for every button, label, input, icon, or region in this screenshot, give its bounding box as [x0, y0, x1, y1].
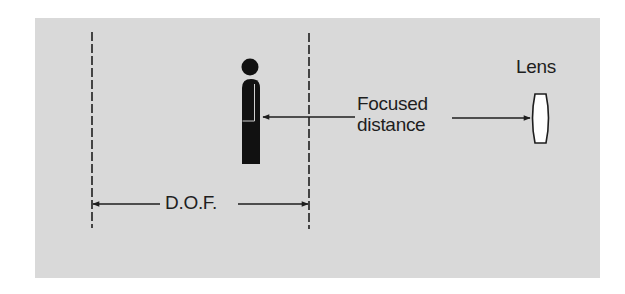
focused-distance-label-line1: Focused	[357, 93, 428, 114]
dof-label: D.O.F.	[164, 193, 218, 213]
person-icon	[242, 59, 261, 165]
lens-label: Lens	[516, 57, 556, 77]
diagram-canvas	[0, 0, 625, 294]
focused-distance-label: Focused distance	[357, 93, 428, 135]
focused-distance-label-line2: distance	[357, 114, 428, 135]
lens-icon	[533, 94, 549, 143]
